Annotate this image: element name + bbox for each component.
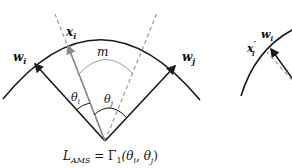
vector-w-j — [105, 66, 175, 141]
label-m: m — [97, 45, 108, 59]
label-x-i-prime: x′i — [246, 40, 257, 58]
label-x-i: xi — [65, 25, 76, 41]
label-theta-i: θi — [71, 91, 80, 106]
margin-arc — [79, 60, 133, 75]
label-w-i-right: wi — [261, 28, 273, 43]
theta-j-arc — [94, 108, 126, 117]
dashed-margin-boundary — [105, 13, 157, 141]
dashed-x-i-prime — [267, 52, 292, 80]
vector-w-i-right — [271, 49, 292, 78]
label-w-i: wi — [13, 50, 26, 66]
label-theta-j: θj — [104, 93, 114, 108]
vector-w-i — [35, 64, 105, 141]
ams-diagram: wi wj xi m θi θj wi x′i LAMS = Γ1(θi, θj… — [0, 0, 292, 168]
formula-l-ams: LAMS = Γ1(θi, θj) — [62, 149, 158, 165]
label-w-j: wj — [182, 50, 195, 66]
